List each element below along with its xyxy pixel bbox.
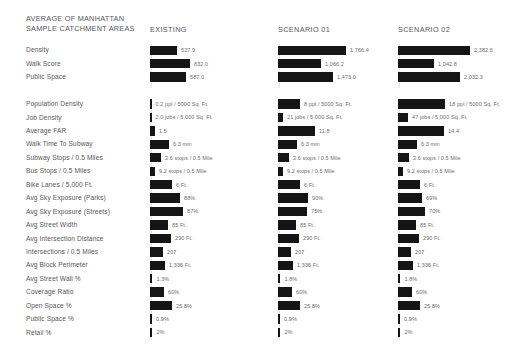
bar [398,46,470,55]
chart-rows: Density527.91,766.42,382.6Walk Score832.… [0,44,516,340]
bar [398,234,419,243]
row-label: Walk Score [26,60,61,67]
bar-value-label: 70% [429,208,440,214]
row-label: Density [26,46,49,53]
row-label: Retail % [26,329,52,336]
row-label: Bike Lanes / 5,000 Ft. [26,181,93,188]
bar [150,99,152,108]
bar [278,193,308,202]
table-row: Avg Sky Exposure (Parks)88%90%69% [0,192,516,205]
bar-value-label: 2% [404,329,412,335]
bar [278,274,280,283]
row-label: Avg Street Wall % [26,275,81,282]
row-label: Average FAR [26,127,66,134]
bar [398,274,400,283]
bar-value-label: 290 Ft. [423,235,441,241]
bar [150,287,164,296]
row-label: Avg Block Perimeter [26,261,88,268]
bar [398,99,445,108]
bar [398,72,460,81]
bar-value-label: 60% [296,289,307,295]
bar-value-label: 85 Ft. [172,222,187,228]
table-row: Avg Street Width85 Ft.85 Ft.85 Ft. [0,219,516,232]
bar [278,314,280,323]
row-label: Subway Stops / 0.5 Miles [26,154,103,161]
bar-value-label: 0.9% [404,316,417,322]
bar-value-label: 1.3% [156,276,169,282]
table-row: Bike Lanes / 5,000 Ft.6 Ft.6 Ft.6 Ft. [0,178,516,191]
row-label: Bus Stops / 0.5 Miles [26,167,90,174]
table-row: Avg Sky Exposure (Streets)87%75%70% [0,205,516,218]
table-row: Public Space587.01,473.02,032.3 [0,71,516,84]
bar-value-label: 85 Ft. [420,222,435,228]
bar-value-label: 75% [311,208,322,214]
table-row: Retail %2%2%2% [0,326,516,339]
bar [150,301,172,310]
bar-value-label: 1,336 Ft. [297,262,319,268]
row-label: Avg Street Width [26,221,77,228]
bar-value-label: 69% [426,195,437,201]
bar-value-label: 587.0 [190,74,204,80]
row-label: Open Space % [26,302,72,309]
bar [278,126,315,135]
bar [150,180,172,189]
bar [398,314,400,323]
bar [398,287,412,296]
bar [278,207,307,216]
bar-value-label: 2.6 stops / 0.5 Mile [165,155,213,161]
bar [150,126,155,135]
bar [150,167,155,176]
bar [150,234,171,243]
bar [278,46,346,55]
table-row: Avg Block Perimeter1,336 Ft.1,336 Ft.1,3… [0,259,516,272]
bar-value-label: 0.2 ppl / 5000 Sq. Ft. [156,101,209,107]
table-row: Avg Intersection Distance290 Ft.290 Ft.2… [0,232,516,245]
bar-value-label: 6.3 min [301,141,320,147]
bar-value-label: 1.5 [159,128,167,134]
bar [150,72,186,81]
bar-value-label: 85 Ft. [300,222,315,228]
bar [398,261,413,270]
bar-value-label: 207 [415,249,424,255]
table-row: Subway Stops / 0.5 Miles2.6 stops / 0.5 … [0,152,516,165]
bar-value-label: 207 [167,249,176,255]
bar [150,193,180,202]
bar [150,207,183,216]
bar-value-label: 0.9% [156,316,169,322]
bar [398,207,425,216]
row-label: Public Space [26,73,66,80]
row-label: Job Density [26,114,62,121]
bar [398,301,420,310]
bar-value-label: 6.3 min [421,141,440,147]
row-label: Coverage Ratio [26,288,74,295]
bar-value-label: 1,473.0 [337,74,356,80]
bar [398,247,411,256]
bar-value-label: 1,336 Ft. [417,262,439,268]
bar [398,220,416,229]
bar [150,274,152,283]
table-row: Walk Time To Subway6.3 min6.3 min6.3 min [0,138,516,151]
column-header-0: EXISTING [150,25,187,34]
bar-value-label: 207 [295,249,304,255]
bar [398,153,409,162]
row-spacer [0,84,516,97]
bar [278,220,296,229]
bar-value-label: 9.2 stops / 0.5 Mile [159,168,207,174]
page-title: AVERAGE OF MANHATTAN SAMPLE CATCHMENT AR… [26,14,146,33]
bar-value-label: 2.6 stops / 0.5 Mile [293,155,341,161]
table-row: Job Density2.0 jobs / 5,000 Sq. Ft.21 jo… [0,111,516,124]
bar [150,153,161,162]
bar [398,180,420,189]
bar-value-label: 47 jobs / 5,000 Sq. Ft. [412,114,468,120]
bar-value-label: 6 Ft. [176,182,187,188]
bar [398,193,422,202]
bar [278,328,280,337]
bar [278,234,299,243]
bar-value-label: 1.8% [284,276,297,282]
bar-value-label: 527.9 [181,47,195,53]
bar [398,140,417,149]
row-label: Population Density [26,100,83,107]
bar [278,261,293,270]
row-label: Public Space % [26,315,74,322]
bar [278,113,283,122]
